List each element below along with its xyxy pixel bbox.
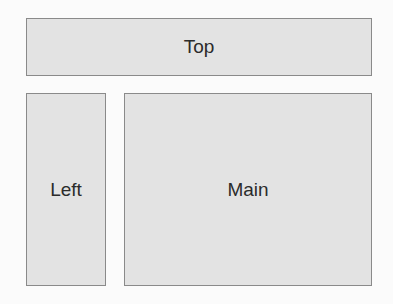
top-label: Top [184,36,215,58]
top-region: Top [26,18,372,76]
left-label: Left [50,179,82,201]
main-label: Main [227,179,268,201]
main-region: Main [124,93,372,286]
left-region: Left [26,93,106,286]
